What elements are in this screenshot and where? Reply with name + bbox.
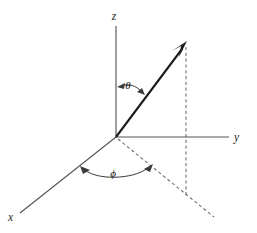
phi-arc [85,168,148,177]
phi-angle-label: ϕ [110,167,116,179]
phi-angle-indicator [80,164,153,177]
y-axis-label: y [233,131,240,144]
z-axis-label: z [111,10,117,22]
ground-projection-dashed-line [118,139,214,217]
theta-arrowhead-left [117,83,125,89]
phi-arrowhead-right [144,164,153,172]
theta-angle-indicator [117,83,145,95]
x-axis-line [20,137,116,213]
x-axis [20,137,116,213]
x-axis-label: x [7,211,14,223]
theta-angle-label: θ [125,79,131,91]
radius-vector-line [116,49,182,137]
coordinate-system-figure: z y x θ ϕ [0,0,257,233]
projection-ground-line [118,139,214,217]
spherical-coordinates-diagram: z y x θ ϕ [0,0,257,233]
radius-vector-arrowhead [172,41,187,57]
